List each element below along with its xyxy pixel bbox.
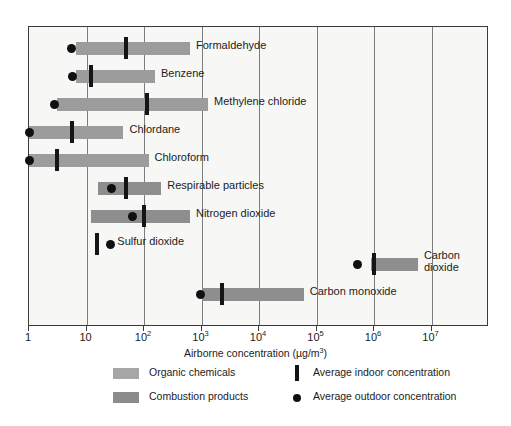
series-label: Formaldehyde xyxy=(196,39,266,51)
chart-row: Carbon dioxide xyxy=(29,252,487,278)
chart-row: Chlordane xyxy=(29,120,487,146)
series-label: Benzene xyxy=(161,67,204,79)
outdoor-average-marker xyxy=(67,44,76,53)
range-bar xyxy=(76,42,190,55)
x-tick-label: 103 xyxy=(192,331,208,343)
legend-label-indoor: Average indoor concentration xyxy=(313,366,450,378)
vertical-bar-icon xyxy=(295,365,299,381)
plot-area: FormaldehydeBenzeneMethylene chlorideChl… xyxy=(28,26,488,326)
indoor-average-marker xyxy=(124,37,128,59)
legend-label-combustion: Combustion products xyxy=(149,390,248,402)
x-tick-label: 106 xyxy=(365,331,381,343)
range-bar xyxy=(29,126,123,139)
range-bar xyxy=(76,70,155,83)
chart-root: FormaldehydeBenzeneMethylene chlorideChl… xyxy=(0,0,511,426)
x-axis-title: Airborne concentration (µg/m3) xyxy=(0,347,511,359)
filled-circle-icon xyxy=(293,394,301,402)
indoor-average-marker xyxy=(145,93,149,115)
outdoor-average-marker xyxy=(106,240,115,249)
x-tick-label: 105 xyxy=(307,331,323,343)
range-bar xyxy=(202,288,304,301)
x-tick-label: 107 xyxy=(422,331,438,343)
series-label: Respirable particles xyxy=(167,179,264,191)
outdoor-average-marker xyxy=(128,212,137,221)
chart-row: Benzene xyxy=(29,64,487,90)
x-tick-label: 1 xyxy=(25,331,31,343)
chart-row: Nitrogen dioxide xyxy=(29,204,487,230)
chart-row: Formaldehyde xyxy=(29,36,487,62)
series-label: Carbon dioxide xyxy=(424,249,484,273)
outdoor-average-marker xyxy=(107,184,116,193)
chart-legend: Organic chemicals Combustion products Av… xyxy=(113,364,443,408)
chart-row: Chloroform xyxy=(29,148,487,174)
series-label: Chlordane xyxy=(129,123,180,135)
range-bar xyxy=(91,210,190,223)
chart-row: Methylene chloride xyxy=(29,92,487,118)
series-label: Methylene chloride xyxy=(214,95,306,107)
x-tick-label: 102 xyxy=(135,331,151,343)
legend-label-organic: Organic chemicals xyxy=(149,366,235,378)
range-bar xyxy=(29,154,149,167)
combustion-swatch-icon xyxy=(113,392,139,403)
indoor-average-marker xyxy=(142,205,146,227)
legend-label-outdoor: Average outdoor concentration xyxy=(313,390,456,402)
range-bar xyxy=(57,98,208,111)
x-tick-label: 104 xyxy=(250,331,266,343)
series-label: Chloroform xyxy=(155,151,209,163)
indoor-average-marker xyxy=(124,177,128,199)
indoor-average-marker xyxy=(372,253,376,275)
range-bar xyxy=(371,258,418,271)
series-label: Sulfur dioxide xyxy=(117,235,184,247)
series-label: Carbon monoxide xyxy=(310,285,397,297)
indoor-average-marker xyxy=(220,283,224,305)
organic-swatch-icon xyxy=(113,368,139,379)
chart-row: Respirable particles xyxy=(29,176,487,202)
x-tick-label: 10 xyxy=(79,331,91,343)
indoor-average-marker xyxy=(70,121,74,143)
outdoor-average-marker xyxy=(353,260,362,269)
outdoor-average-marker xyxy=(25,156,34,165)
indoor-average-marker xyxy=(89,65,93,87)
indoor-average-marker xyxy=(55,149,59,171)
chart-row: Carbon monoxide xyxy=(29,282,487,308)
outdoor-average-marker xyxy=(25,128,34,137)
series-label: Nitrogen dioxide xyxy=(196,207,276,219)
